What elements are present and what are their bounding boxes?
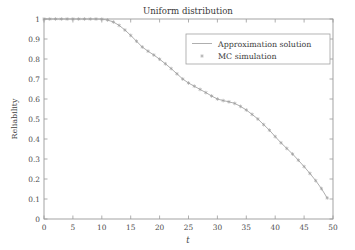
y-tick-label: 0.5 — [28, 115, 40, 124]
uniform-distribution-chart: Uniform distribution 00.10.20.30.40.50.6… — [0, 0, 355, 250]
x-tick-label: 20 — [155, 223, 165, 232]
x-tick-label: 15 — [126, 223, 136, 232]
chart-legend: Approximation solution MC simulation — [186, 34, 330, 64]
x-tick-label: 25 — [184, 223, 194, 232]
y-tick-label: 0.6 — [28, 95, 40, 104]
legend-label-mc-simulation: MC simulation — [218, 52, 277, 61]
x-tick-label: 10 — [97, 223, 107, 232]
y-tick-label: 0.9 — [28, 35, 40, 44]
x-tick-label: 35 — [242, 223, 252, 232]
chart-title: Uniform distribution — [143, 6, 233, 16]
y-tick-label: 0.4 — [28, 135, 40, 144]
y-axis-title: Reliability — [10, 98, 19, 140]
x-tick-label: 50 — [328, 223, 338, 232]
y-tick-label: 0.7 — [28, 75, 40, 84]
x-tick-label: 45 — [299, 223, 309, 232]
x-tick-label: 40 — [270, 223, 280, 232]
y-tick-label: 0.8 — [28, 55, 40, 64]
chart-figure: Uniform distribution 00.10.20.30.40.50.6… — [0, 0, 355, 250]
x-tick-label: 5 — [71, 223, 76, 232]
y-tick-label: 0.2 — [28, 175, 40, 184]
y-tick-label: 0.3 — [28, 155, 40, 164]
y-tick-label: 0 — [35, 215, 40, 224]
y-tick-label: 1 — [35, 15, 40, 24]
x-tick-label: 0 — [42, 223, 47, 232]
x-tick-label: 30 — [213, 223, 223, 232]
y-tick-label: 0.1 — [28, 195, 40, 204]
legend-label-approximation-solution: Approximation solution — [217, 40, 311, 49]
